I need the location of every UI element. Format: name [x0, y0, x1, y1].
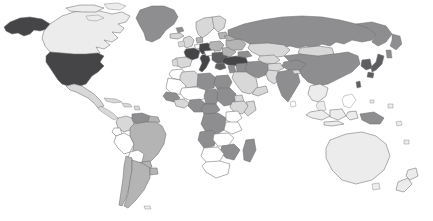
- region-sri-lanka[interactable]: [290, 101, 296, 107]
- region-uruguay[interactable]: [150, 168, 158, 175]
- region-denmark[interactable]: [196, 37, 203, 43]
- region-sakhalin[interactable]: [386, 50, 392, 58]
- region-pacific-islet-d[interactable]: [370, 100, 374, 103]
- region-pacific-islet-a[interactable]: [396, 121, 402, 126]
- region-pacific-islet-c[interactable]: [388, 104, 393, 108]
- world-map-figure: [0, 0, 433, 221]
- region-japan-south[interactable]: [367, 72, 374, 78]
- region-tunisia-libya[interactable]: [197, 73, 216, 90]
- region-caribbean-islets[interactable]: [134, 106, 140, 110]
- region-portugal[interactable]: [172, 59, 178, 66]
- region-tasmania[interactable]: [372, 183, 380, 190]
- world-map-svg: [0, 0, 433, 221]
- region-falklands[interactable]: [144, 206, 151, 209]
- region-pacific-islet-b[interactable]: [404, 140, 409, 144]
- region-taiwan[interactable]: [356, 81, 361, 88]
- region-ireland[interactable]: [178, 41, 185, 47]
